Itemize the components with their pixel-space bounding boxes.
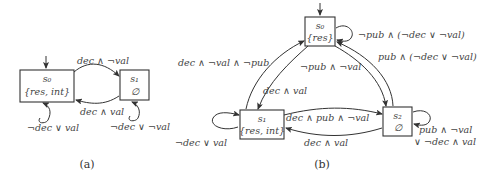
- edge-b-s2-s1: [286, 128, 382, 136]
- edge-a-s0-loop: [39, 103, 50, 123]
- edge-label: pub ∧ ¬val: [419, 124, 472, 135]
- state-name: s₀: [43, 73, 52, 84]
- figure-a: s₀ {res, int} s₁ ∅ dec ∧ ¬val dec ∧ val …: [20, 55, 170, 171]
- automata-figure: s₀ {res, int} s₁ ∅ dec ∧ ¬val dec ∧ val …: [0, 0, 485, 181]
- edge-label: ¬dec ∨ ¬val: [110, 121, 170, 132]
- edge-label: dec ∧ val: [80, 106, 124, 117]
- state-b-s2: s₂ ∅: [383, 107, 412, 136]
- edge-label: ∨ ¬dec ∧ val: [414, 136, 476, 147]
- edge-b-s1-s0: [246, 41, 304, 109]
- edge-label: dec ∧ ¬val: [77, 55, 129, 66]
- state-label: {res, int}: [24, 86, 70, 97]
- state-label: {res, int}: [239, 125, 285, 136]
- edge-label: ¬pub ∧ (¬dec ∨ ¬val): [358, 29, 465, 40]
- edge-label: dec ∧ pub ∧ ¬val: [286, 112, 369, 123]
- edge-b-s0-loop: [336, 26, 352, 41]
- figure-b: s₀ {res} s₁ {res, int} s₂ ∅ ¬pub ∧ (¬dec…: [175, 3, 477, 171]
- edge-label: ¬dec ∨ val: [175, 137, 227, 148]
- edge-b-s0-s1: [258, 46, 308, 109]
- state-b-s1: s₁ {res, int}: [239, 110, 285, 139]
- state-name: s₁: [258, 113, 267, 124]
- state-a-s0: s₀ {res, int}: [20, 70, 74, 102]
- state-label: ∅: [131, 86, 140, 97]
- edge-label: dec ∧ val: [304, 137, 348, 148]
- edge-label: dec ∧ val: [263, 85, 307, 96]
- state-name: s₂: [393, 110, 402, 121]
- state-a-s1: s₁ ∅: [120, 70, 149, 100]
- edge-a-s1-s0: [76, 96, 119, 103]
- caption-b: (b): [314, 158, 330, 171]
- edge-label: pub ∧ (¬dec ∨ ¬val): [378, 51, 477, 62]
- state-label: {res}: [306, 32, 333, 43]
- edge-b-s1-loop: [212, 113, 239, 129]
- caption-a: (a): [79, 158, 94, 171]
- state-b-s0: s₀ {res}: [305, 17, 335, 46]
- state-label: ∅: [394, 122, 403, 133]
- state-name: s₁: [130, 73, 139, 84]
- state-name: s₀: [316, 20, 325, 31]
- edge-label: dec ∧ ¬val ∧ ¬pub: [178, 57, 269, 68]
- edge-label: ¬pub ∧ ¬val: [300, 61, 361, 72]
- edge-label: ¬dec ∨ val: [27, 122, 79, 133]
- edge-a-s1-loop: [129, 102, 139, 121]
